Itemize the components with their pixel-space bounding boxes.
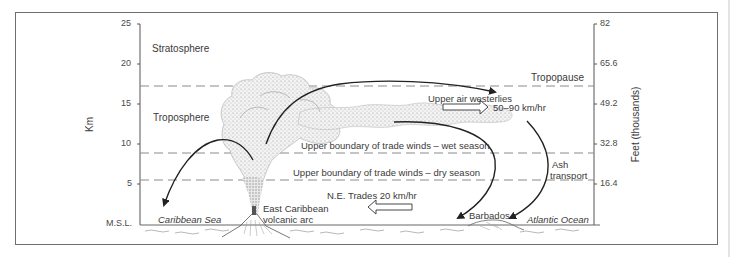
wet-season-label: Upper boundary of trade winds – wet seas…	[301, 141, 490, 151]
right-axis-title: Feet (thousands)	[630, 87, 641, 163]
right-tick-65-6: 65.6	[600, 59, 618, 68]
left-tick-msl: M.S.L.	[106, 219, 132, 228]
left-tick-20: 20	[121, 59, 131, 68]
volcanic-arc-label-2: volcanic arc	[263, 215, 313, 225]
left-axis	[137, 24, 140, 225]
barbados-label: Barbados	[469, 211, 510, 221]
ash-label: Ash	[552, 160, 568, 170]
troposphere-label: Troposphere	[153, 113, 209, 123]
left-tick-5: 5	[127, 179, 132, 188]
atlantic-ocean-label: Atlantic Ocean	[527, 215, 589, 225]
westerlies-speed: 50–90 km/hr	[493, 103, 546, 113]
right-axis	[594, 24, 597, 225]
left-tick-15: 15	[121, 99, 131, 108]
right-tick-82: 82	[600, 19, 610, 28]
trades-hollow-arrow	[368, 200, 412, 214]
left-tick-25: 25	[121, 19, 131, 28]
stratosphere-label: Stratosphere	[152, 44, 209, 54]
right-tick-32-8: 32.8	[600, 139, 618, 148]
right-tick-16-4: 16.4	[600, 179, 618, 188]
left-tick-10: 10	[121, 139, 131, 148]
caribbean-sea-label: Caribbean Sea	[158, 215, 221, 225]
transport-label: transport	[550, 171, 588, 181]
tropopause-label: Tropopause	[531, 73, 584, 83]
dry-season-label: Upper boundary of trade winds – dry seas…	[293, 168, 480, 178]
volcanic-arc-label-1: East Caribbean	[263, 204, 328, 214]
sea-level	[140, 225, 600, 234]
left-axis-title: Km	[84, 117, 95, 132]
right-tick-49-2: 49.2	[600, 99, 618, 108]
trades-label: N.E. Trades 20 km/hr	[327, 191, 417, 201]
